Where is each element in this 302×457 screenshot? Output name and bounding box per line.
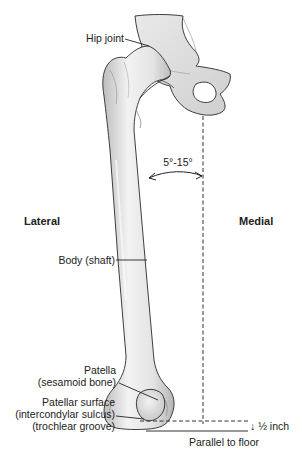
medial-label: Medial xyxy=(239,215,273,227)
offset-label: ↓ ½ inch xyxy=(250,420,289,432)
patella-label: Patella (sesamoid bone) xyxy=(20,364,116,388)
angle-arc xyxy=(149,172,202,180)
offset-value: ½ inch xyxy=(258,420,289,432)
patellar-surface-line1: Patellar surface xyxy=(4,396,115,408)
angle-label: 5°-15° xyxy=(158,156,198,168)
patellar-surface-line3: (trochlear groove) xyxy=(4,420,115,432)
patella-label-line2: (sesamoid bone) xyxy=(20,376,116,388)
femur-diagram: Hip joint 5°-15° Lateral Medial Body (sh… xyxy=(0,0,302,457)
body-shaft-label: Body (shaft) xyxy=(40,254,115,266)
patellar-surface-line2: (intercondylar sulcus) xyxy=(4,408,115,420)
femur-illustration xyxy=(0,0,302,457)
hip-joint-label: Hip joint xyxy=(78,32,124,44)
patella-label-line1: Patella xyxy=(20,364,116,376)
patella xyxy=(136,389,164,420)
down-arrow-icon: ↓ xyxy=(250,420,255,432)
patellar-surface-label: Patellar surface (intercondylar sulcus) … xyxy=(4,396,115,432)
parallel-to-floor-label: Parallel to floor xyxy=(189,436,259,448)
lateral-label: Lateral xyxy=(24,215,60,227)
